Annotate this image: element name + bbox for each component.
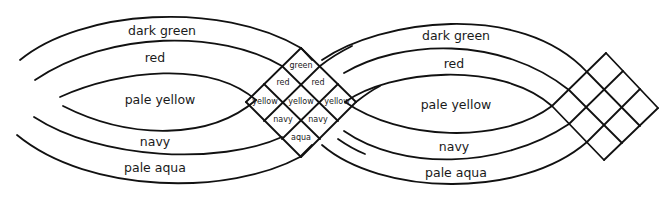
left-label-red: red <box>145 50 166 65</box>
right-label-dark-green: dark green <box>422 28 490 43</box>
left-label-navy: navy <box>140 134 171 149</box>
left-label-dark-green: dark green <box>128 23 196 38</box>
cell-label-lower-right: navy <box>308 115 328 124</box>
cell-label-top: green <box>289 61 312 70</box>
left-label-pale-yellow: pale yellow <box>125 92 196 107</box>
cell-label-middle-center: yellow <box>288 97 314 106</box>
cell-label-bottom: aqua <box>291 133 311 142</box>
cell-label-upper-right: red <box>311 78 324 87</box>
cell-label-middle-right: yellow <box>324 97 350 106</box>
right-label-pale-aqua: pale aqua <box>425 165 487 180</box>
left-label-pale-aqua: pale aqua <box>124 160 186 175</box>
right-lattice <box>552 53 658 160</box>
right-label-red: red <box>444 56 465 71</box>
cell-label-upper-left: red <box>276 78 289 87</box>
cell-label-middle-left: yellow <box>252 97 278 106</box>
right-label-pale-yellow: pale yellow <box>421 97 492 112</box>
braid-diagram: dark green red pale yellow navy pale aqu… <box>0 0 671 199</box>
right-label-navy: navy <box>439 139 470 154</box>
cell-label-lower-left: navy <box>273 115 293 124</box>
